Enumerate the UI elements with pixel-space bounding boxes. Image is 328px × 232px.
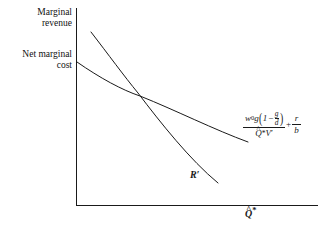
- x-axis-q-hat: Q^: [245, 208, 252, 219]
- g-over-d-fraction: gd: [275, 110, 279, 126]
- net-marginal-cost-curve: [77, 62, 248, 142]
- paren-open: (: [259, 112, 262, 124]
- fraction-numerator: w0g(1−gd): [243, 110, 285, 127]
- denominator-q-hat: Q^: [255, 129, 262, 138]
- fraction-denominator: Q^*V′: [253, 128, 275, 138]
- net-marginal-cost-formula: w0g(1−gd) Q^*V′ + r b: [243, 110, 301, 138]
- denominator-hat-accent: ^: [257, 126, 261, 134]
- r-prime-curve-label: R′: [190, 169, 199, 180]
- main-fraction: w0g(1−gd) Q^*V′: [243, 110, 285, 138]
- g-over-d-denominator: d: [275, 119, 279, 127]
- g-over-d-numerator: g: [275, 110, 279, 118]
- x-axis-hat-accent: ^: [246, 205, 251, 214]
- economics-figure: Marginal revenue Net marginal cost R′ Q^…: [0, 0, 328, 232]
- r-prime-letter: R: [190, 169, 197, 180]
- plus-sign: +: [286, 120, 291, 129]
- paren-close: ): [279, 112, 282, 124]
- r-over-b-fraction: r b: [292, 114, 301, 135]
- x-axis-label: Q^*: [245, 206, 256, 219]
- r-over-b-numerator: r: [293, 114, 301, 124]
- r-over-b-denominator: b: [292, 125, 301, 135]
- minus-sign: −: [268, 114, 273, 123]
- marginal-revenue-label: Marginal revenue: [0, 7, 72, 28]
- net-marginal-cost-label: Net marginal cost: [0, 49, 72, 70]
- denominator-v-prime: ′: [271, 129, 273, 138]
- marginal-revenue-curve: [91, 32, 218, 183]
- one-literal: 1: [263, 114, 268, 123]
- r-prime-mark: ′: [197, 169, 200, 180]
- x-axis-star: *: [252, 205, 256, 215]
